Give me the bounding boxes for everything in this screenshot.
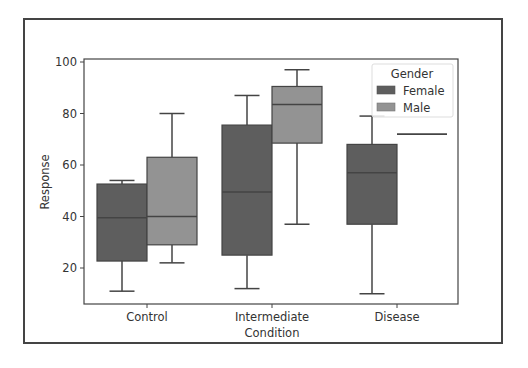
box-male-intermediate <box>272 70 322 225</box>
box-female-disease <box>347 116 397 294</box>
legend-label-female: Female <box>403 84 445 98</box>
y-axis: 20406080100 <box>55 55 84 275</box>
box-male-control <box>147 114 197 263</box>
x-axis-title: Condition <box>245 326 300 340</box>
legend-label-male: Male <box>403 101 430 115</box>
x-tick-label: Control <box>126 310 168 324</box>
y-tick-label: 60 <box>62 158 77 172</box>
legend-swatch-female <box>377 86 395 94</box>
x-axis: ControlIntermediateDisease <box>126 304 419 324</box>
legend-swatch-male <box>377 103 395 111</box>
box-plot-chart: 20406080100 ControlIntermediateDisease R… <box>0 0 528 368</box>
y-tick-label: 40 <box>62 210 77 224</box>
x-tick-label: Disease <box>374 310 419 324</box>
y-tick-label: 80 <box>62 107 77 121</box>
y-tick-label: 20 <box>62 261 77 275</box>
x-tick-label: Intermediate <box>235 310 309 324</box>
legend-title: Gender <box>391 67 434 81</box>
legend: Gender Female Male <box>372 64 453 117</box>
y-tick-label: 100 <box>55 55 77 69</box>
y-axis-title: Response <box>38 154 52 209</box>
box-female-intermediate <box>222 95 272 288</box>
box-female-control <box>97 180 147 291</box>
